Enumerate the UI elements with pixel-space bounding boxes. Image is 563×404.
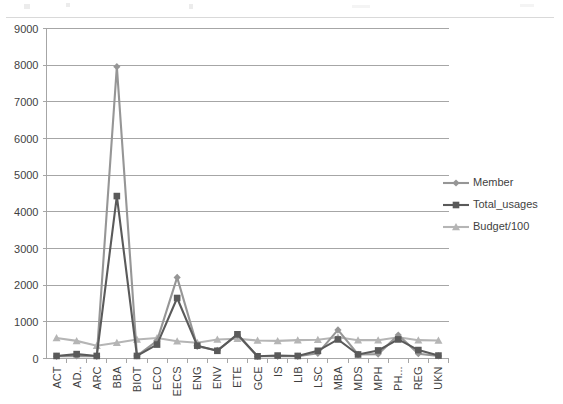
x-axis-tick-label: IS — [272, 367, 284, 377]
x-axis-tick-label: REG — [412, 367, 424, 391]
chart-legend: MemberTotal_usagesBudget/100 — [443, 176, 538, 232]
data-point-marker — [234, 331, 241, 338]
x-axis-tick-labels: ACTAD..ARCBBABIOTECOEECSENGENVETEGCEISLI… — [51, 366, 445, 397]
chart-container: 0100020003000400050006000700080009000 AC… — [0, 0, 563, 404]
data-point-marker — [174, 295, 181, 302]
data-point-marker — [415, 347, 422, 354]
data-point-marker — [194, 342, 201, 349]
y-axis-tick-labels: 0100020003000400050006000700080009000 — [14, 23, 38, 365]
y-axis-tick-label: 7000 — [14, 96, 38, 108]
data-point-marker — [294, 353, 301, 360]
data-point-marker — [435, 352, 442, 359]
legend-label: Budget/100 — [473, 220, 529, 232]
data-point-marker — [315, 348, 322, 355]
y-axis-tick-label: 0 — [32, 353, 38, 365]
x-axis-tick-label: ENV — [211, 366, 223, 389]
x-axis-tick-label: EECS — [171, 367, 183, 397]
x-axis-tick-label: BIOT — [131, 366, 143, 392]
data-point-marker — [53, 353, 60, 360]
x-axis-tick-label: PH... — [392, 367, 404, 391]
legend-item-total-usages[interactable]: Total_usages — [443, 198, 538, 210]
y-axis-tick-label: 3000 — [14, 243, 38, 255]
gridline-group — [47, 29, 449, 359]
legend-item-budget-100[interactable]: Budget/100 — [443, 220, 529, 232]
data-point-marker — [274, 352, 281, 359]
line-chart-plot: 0100020003000400050006000700080009000 AC… — [0, 0, 563, 404]
y-axis-tick-label: 1000 — [14, 316, 38, 328]
x-axis-tick-label: ECO — [151, 366, 163, 390]
data-point-marker — [375, 347, 382, 354]
data-point-marker — [113, 63, 120, 70]
x-axis-tick-label: GCE — [252, 367, 264, 391]
y-axis-tick-label: 9000 — [14, 23, 38, 35]
data-point-marker — [335, 336, 342, 343]
x-axis-tick-label: ENG — [191, 367, 203, 391]
tick-mark-group — [43, 29, 449, 363]
x-axis-tick-label: MDS — [352, 367, 364, 391]
series-line — [57, 196, 439, 356]
x-axis-tick-label: MBA — [332, 366, 344, 391]
legend-marker-icon — [453, 202, 460, 209]
x-axis-tick-label: LSC — [312, 366, 324, 387]
data-point-marker — [395, 336, 402, 343]
data-point-marker — [73, 351, 80, 358]
legend-label: Member — [473, 176, 514, 188]
data-point-marker — [154, 341, 161, 348]
y-axis-tick-label: 8000 — [14, 59, 38, 71]
data-point-marker — [93, 353, 100, 360]
series-total-usages — [53, 193, 442, 360]
x-axis-tick-label: ETE — [231, 367, 243, 388]
data-point-marker — [355, 351, 362, 358]
data-point-marker — [134, 353, 141, 360]
x-axis-tick-label: ACT — [51, 366, 63, 388]
legend-label: Total_usages — [473, 198, 538, 210]
data-point-marker — [114, 193, 121, 200]
legend-item-member[interactable]: Member — [443, 176, 514, 188]
x-axis-tick-label: LIB — [292, 367, 304, 384]
y-axis-tick-label: 4000 — [14, 206, 38, 218]
data-point-marker — [214, 348, 221, 355]
data-point-marker — [174, 274, 181, 281]
y-axis-tick-label: 6000 — [14, 133, 38, 145]
y-axis-tick-label: 5000 — [14, 169, 38, 181]
data-point-marker — [254, 353, 261, 360]
y-axis-tick-label: 2000 — [14, 279, 38, 291]
legend-marker-icon — [452, 179, 459, 186]
x-axis-tick-label: MPH — [372, 366, 384, 391]
x-axis-tick-label: UKN — [432, 366, 444, 389]
x-axis-tick-label: AD.. — [71, 367, 83, 388]
x-axis-tick-label: BBA — [111, 366, 123, 389]
x-axis-tick-label: ARC — [91, 366, 103, 389]
